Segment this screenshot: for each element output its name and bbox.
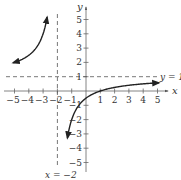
y-tick-label: 2 [76, 57, 82, 67]
y-tick-label: −2 [69, 115, 82, 125]
left-branch-curve [13, 17, 47, 63]
x-tick-label: −5 [6, 95, 20, 105]
y-tick-label: −1 [69, 100, 82, 110]
vertical-asymptote-label: x = −2 [45, 170, 77, 180]
y-tick-label: −3 [69, 129, 83, 139]
x-tick-label: 2 [112, 95, 118, 105]
x-axis-label: x [172, 85, 178, 96]
labels: −5−4−3−2−11234554321−1−2−3−4−5xyx = −2y … [6, 1, 181, 180]
x-tick-label: 1 [97, 95, 103, 105]
y-axis-label: y [76, 1, 83, 12]
y-tick-label: 5 [76, 15, 82, 25]
y-tick-label: 3 [76, 43, 82, 53]
y-tick-label: 4 [76, 29, 82, 39]
x-tick-label: 5 [155, 95, 161, 105]
x-tick-label: −2 [49, 95, 62, 105]
y-tick-label: 1 [76, 72, 82, 82]
horizontal-asymptote-label: y = 1 [159, 72, 181, 82]
y-tick-label: −5 [69, 158, 83, 168]
x-tick-label: −3 [35, 95, 49, 105]
x-tick-label: −4 [21, 95, 35, 105]
x-tick-label: 3 [126, 95, 132, 105]
y-tick-label: −4 [69, 143, 83, 153]
x-tick-label: 4 [140, 95, 146, 105]
rational-function-graph: −5−4−3−2−11234554321−1−2−3−4−5xyx = −2y … [0, 0, 181, 180]
